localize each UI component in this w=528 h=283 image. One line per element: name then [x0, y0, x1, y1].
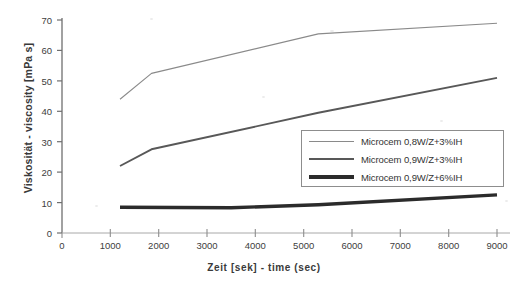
series-line-microcem-08wz-3ih — [120, 23, 497, 99]
series-line-microcem-09wz-6ih — [120, 195, 497, 208]
x-axis-title: Zeit [sek] - time (sec) — [0, 262, 528, 273]
legend-swatch-line-icon — [309, 158, 354, 160]
legend-label: Microcem 0,8W/Z+3%IH — [361, 136, 462, 147]
legend-swatch-line-icon — [309, 141, 354, 142]
legend-item-microcem-09wz-3ih: Microcem 0,9W/Z+3%IH — [309, 150, 497, 168]
y-tick-marks — [57, 20, 62, 233]
viscosity-time-chart: Viskosität - viscosity [mPa s] 70 60 50 … — [0, 0, 528, 283]
legend-item-microcem-08wz-3ih: Microcem 0,8W/Z+3%IH — [309, 132, 497, 150]
legend-label: Microcem 0,9W/Z+3%IH — [361, 154, 462, 165]
legend-label: Microcem 0,9W/Z+6%IH — [361, 172, 462, 183]
legend-swatch-line-icon — [309, 175, 354, 179]
legend-item-microcem-09wz-6ih: Microcem 0,9W/Z+6%IH — [309, 168, 497, 186]
chart-legend: Microcem 0,8W/Z+3%IH Microcem 0,9W/Z+3%I… — [301, 130, 504, 187]
